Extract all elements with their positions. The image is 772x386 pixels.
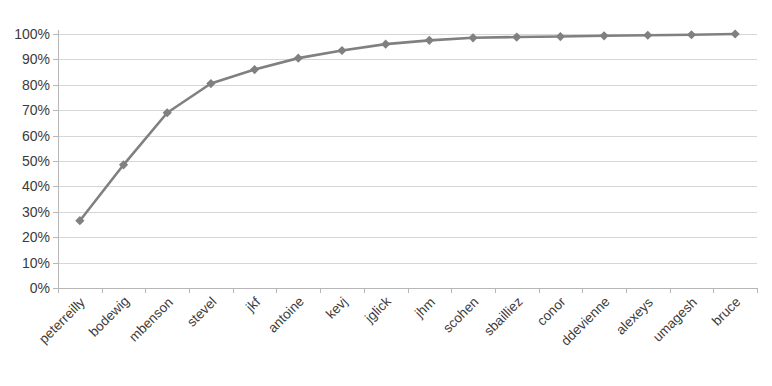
x-axis-tick-label: kevj [323,294,351,322]
x-axis-tick-label: jhm [412,294,438,320]
x-axis-tick-label: peterreilly [36,294,88,346]
x-axis-tick-label: alexeys [613,294,656,337]
x-axis-labels: peterreillybodewigmbensonsteveljkfantoin… [0,0,772,386]
x-axis-tick-label: mbenson [126,294,176,344]
x-axis-tick-label: conor [534,294,568,328]
chart-container: 100%90%80%70%60%50%40%30%20%10%0% peterr… [0,0,772,386]
x-axis-tick-label: stevel [184,294,220,330]
x-axis-tick-label: umagesh [650,294,700,344]
x-axis-tick-label: scohen [440,294,481,335]
x-axis-tick-label: sbailliez [481,294,526,339]
x-axis-tick-label: jglick [362,294,394,326]
x-axis-tick-label: bruce [709,294,743,328]
x-axis-tick-label: antoine [265,294,307,336]
x-axis-tick-label: jkf [243,294,263,314]
